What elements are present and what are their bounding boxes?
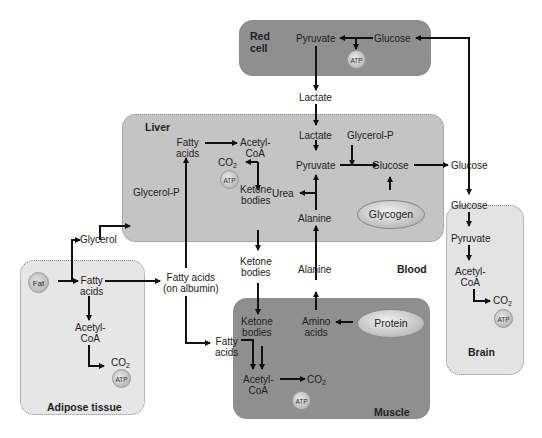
muscle-co2: CO2 <box>307 374 326 388</box>
brain-title: Brain <box>468 346 495 358</box>
red-cell-glucose: Glucose <box>374 33 411 44</box>
muscle-amino-acids: Aminoacids <box>302 316 330 338</box>
brain-acetyl-coa: Acetyl-CoA <box>455 266 486 288</box>
pathway-arrows <box>0 0 542 438</box>
muscle-title: Muscle <box>374 406 410 418</box>
atp-icon: ATP <box>112 369 131 388</box>
muscle-fatty-acids: Fattyacids <box>215 336 238 358</box>
brain-pyruvate: Pyruvate <box>451 233 490 244</box>
liver-glycerol-p: Glycerol-P <box>133 187 180 198</box>
blood-alanine: Alanine <box>298 264 331 275</box>
blood-ketone-bodies: Ketonebodies <box>240 256 272 278</box>
fat-droplet: Fat <box>28 272 49 293</box>
brain-co2: CO2 <box>493 295 512 309</box>
liver-lactate: Lactate <box>299 130 332 141</box>
red-cell-pyruvate: Pyruvate <box>296 33 335 44</box>
liver-glucose: Glucose <box>372 160 409 171</box>
brain-glucose: Glucose <box>451 200 488 211</box>
liver-pyruvate: Pyruvate <box>296 160 335 171</box>
liver-ketone-bodies: Ketonebodies <box>240 184 272 206</box>
liver-urea: Urea <box>272 188 294 199</box>
atp-icon: ATP <box>220 170 239 189</box>
protein-store: Protein <box>357 309 425 338</box>
liver-alanine: Alanine <box>298 213 331 224</box>
liver-co2: CO2 <box>218 157 237 171</box>
muscle-acetyl-coa: Acetyl-CoA <box>243 374 274 396</box>
atp-icon: ATP <box>347 50 366 69</box>
liver-fatty-acids: Fattyacids <box>176 137 199 159</box>
atp-icon: ATP <box>292 391 311 410</box>
red-cell-title: Redcell <box>250 30 270 54</box>
glycogen-store: Glycogen <box>357 200 425 229</box>
atp-icon: ATP <box>494 309 513 328</box>
blood-fatty-acids-albumin: Fatty acids(on albumin) <box>163 272 219 294</box>
adipose-title: Adipose tissue <box>47 401 122 413</box>
liver-title: Liver <box>145 121 170 133</box>
blood-title: Blood <box>397 263 427 275</box>
blood-lactate: Lactate <box>299 92 332 103</box>
liver-glycerol-p-2: Glycerol-P <box>347 130 394 141</box>
blood-glucose: Glucose <box>451 160 488 171</box>
adipose-fatty-acids: Fattyacids <box>80 275 103 297</box>
liver-acetyl-coa: Acetyl-CoA <box>240 137 271 159</box>
blood-glycerol: Glycerol <box>80 234 117 245</box>
muscle-ketone-bodies: Ketonebodies <box>241 316 273 338</box>
adipose-acetyl-coa: Acetyl-CoA <box>75 322 106 344</box>
